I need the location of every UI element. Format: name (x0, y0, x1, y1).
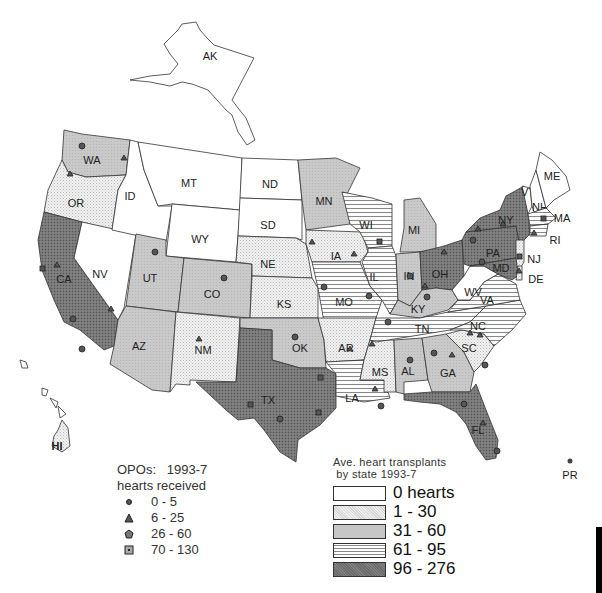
state-legend-label: 0 hearts (393, 483, 454, 503)
state-nm: NM (170, 312, 240, 392)
svg-text:OK: OK (292, 342, 309, 354)
opo-legend-row: 6 - 25 (123, 510, 207, 526)
svg-text:KY: KY (411, 303, 426, 315)
svg-text:LA: LA (345, 392, 359, 404)
svg-text:FL: FL (472, 424, 485, 436)
svg-text:PA: PA (486, 247, 501, 259)
opo-legend-label: 26 - 60 (151, 526, 191, 542)
svg-text:IL: IL (369, 271, 378, 283)
svg-text:NE: NE (260, 258, 275, 270)
swatch-96-276 (333, 562, 386, 577)
svg-text:NM: NM (194, 344, 211, 356)
state-legend-row: 0 hearts (333, 484, 455, 502)
opo-legend-label: 0 - 5 (151, 494, 177, 510)
svg-text:ID: ID (125, 190, 136, 202)
edge-bar (596, 527, 602, 593)
svg-text:SC: SC (461, 342, 476, 354)
opo-legend-row: 0 - 5 (123, 494, 207, 510)
svg-text:WI: WI (359, 219, 372, 231)
svg-text:MD: MD (492, 262, 509, 274)
state-legend-row: 31 - 60 (333, 522, 455, 540)
state-az: AZ (110, 306, 176, 392)
svg-text:WV: WV (464, 286, 482, 298)
svg-text:MS: MS (372, 366, 389, 378)
state-legend-title: Ave. heart transplants by state 1993-7 (333, 456, 455, 480)
svg-text:DE: DE (528, 273, 543, 285)
svg-text:ND: ND (262, 178, 278, 190)
swatch-31-60 (333, 524, 386, 539)
swatch-61-95 (333, 543, 386, 558)
state-de: DE (516, 266, 544, 285)
svg-text:NJ: NJ (527, 253, 540, 265)
state-wa: WA (62, 130, 130, 177)
dot-icon (123, 496, 135, 508)
state-legend-label: 31 - 60 (393, 521, 446, 541)
svg-text:NC: NC (470, 320, 486, 332)
state-legend: Ave. heart transplants by state 1993-7 0… (333, 456, 455, 578)
state-ia: IA (306, 230, 368, 262)
svg-text:HI: HI (52, 440, 63, 452)
svg-text:SD: SD (260, 219, 275, 231)
state-nd: ND (240, 158, 302, 200)
state-hi: HI (20, 360, 70, 452)
state-legend-label: 1 - 30 (393, 502, 436, 522)
opo-legend-label: 6 - 25 (151, 510, 184, 526)
svg-text:TX: TX (261, 394, 276, 406)
territory-pr: PR (562, 459, 577, 482)
state-legend-label: 61 - 95 (393, 540, 446, 560)
svg-text:CO: CO (204, 288, 221, 300)
state-legend-row: 61 - 95 (333, 541, 455, 559)
svg-text:CA: CA (56, 273, 72, 285)
svg-text:TN: TN (415, 323, 430, 335)
svg-text:AL: AL (401, 365, 414, 377)
opo-legend: OPOs: 1993-7 hearts received 0 - 5 6 - 2… (117, 462, 207, 558)
svg-text:OR: OR (68, 197, 85, 209)
state-ks: KS (250, 276, 318, 318)
svg-text:NV: NV (92, 268, 108, 280)
state-ak: AK (130, 22, 255, 145)
svg-text:MA: MA (554, 212, 571, 224)
svg-text:MT: MT (181, 177, 197, 189)
svg-text:VA: VA (480, 294, 495, 306)
square-icon (123, 544, 135, 556)
svg-text:GA: GA (440, 367, 457, 379)
state-co: CO (178, 258, 252, 318)
svg-text:MN: MN (315, 195, 332, 207)
svg-text:AK: AK (203, 50, 218, 62)
opo-legend-title: OPOs: 1993-7 hearts received (117, 462, 207, 494)
state-mi: MI (400, 198, 436, 252)
svg-text:OH: OH (432, 268, 449, 280)
us-heart-transplant-map: AK WA OR CA NV ID MT WY UT CO (0, 0, 602, 593)
swatch-0-hearts (333, 486, 386, 501)
svg-text:MI: MI (408, 224, 420, 236)
swatch-1-30 (333, 505, 386, 520)
svg-text:WY: WY (191, 233, 209, 245)
triangle-icon (123, 512, 135, 524)
opo-legend-label: 70 - 130 (151, 542, 199, 558)
opo-legend-row: 26 - 60 (123, 526, 207, 542)
svg-text:RI: RI (550, 234, 561, 246)
svg-text:UT: UT (143, 272, 158, 284)
pentagon-icon (123, 528, 135, 540)
svg-text:AZ: AZ (132, 340, 146, 352)
svg-text:PR: PR (562, 469, 577, 481)
state-wy: WY (166, 204, 240, 262)
svg-text:IA: IA (331, 250, 342, 262)
opo-legend-row: 70 - 130 (123, 542, 207, 558)
svg-text:KS: KS (277, 298, 292, 310)
state-sd: SD (238, 198, 302, 240)
state-legend-row: 96 - 276 (333, 560, 455, 578)
state-legend-row: 1 - 30 (333, 503, 455, 521)
svg-text:WA: WA (83, 154, 101, 166)
svg-text:MO: MO (335, 296, 353, 308)
state-legend-label: 96 - 276 (393, 559, 455, 579)
svg-text:ME: ME (544, 170, 561, 182)
